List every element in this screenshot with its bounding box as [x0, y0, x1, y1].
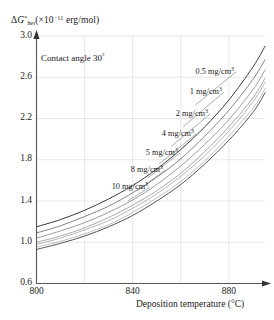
curve-label-text: 5 mg/cm: [146, 148, 175, 157]
contact-angle-degree-symbol: °: [102, 52, 105, 59]
curve-label-text: 4 mg/cm: [162, 129, 191, 138]
curve-label-8-mg-cm3: 8 mg/cm3: [131, 164, 163, 174]
contact-angle-annotation: Contact angle 30°: [41, 52, 105, 63]
chart-figure: ΔG*het(×10−11 erg/mol) Contact angle 30°…: [0, 0, 274, 320]
curve-label-exponent: 3: [160, 164, 163, 170]
curve-label-1-mg-cm3: 1 mg/cm3: [190, 86, 222, 96]
y-tick-label: 2.6: [8, 71, 32, 81]
y-tick-label: 1.0: [8, 236, 32, 246]
y-tick-label: 3.0: [8, 30, 32, 40]
curve-label-exponent: 3: [219, 86, 222, 92]
curve-label-exponent: 3: [175, 147, 178, 153]
curve-label-exponent: 3: [191, 128, 194, 134]
curve-label-5-mg-cm3: 5 mg/cm3: [146, 147, 178, 157]
curve-label-0.5-mg-cm3: 0.5 mg/cm3: [196, 66, 234, 76]
curve-label-text: 0.5 mg/cm: [196, 67, 232, 76]
y-axis-arrow-icon: [33, 30, 39, 39]
curve-label-text: 2 mg/cm: [176, 109, 205, 118]
curve-label-4-mg-cm3: 4 mg/cm3: [162, 128, 194, 138]
curve-label-exponent: 3: [145, 181, 148, 187]
axis-lines: [33, 30, 271, 287]
x-tick-label: 800: [20, 286, 54, 296]
y-tick-label: 2.2: [8, 112, 32, 122]
curve-label-text: 1 mg/cm: [190, 87, 219, 96]
x-tick-label: 840: [116, 286, 150, 296]
curve-label-10-mg-cm3: 10 mg/cm3: [112, 181, 148, 191]
contact-angle-text: Contact angle 30: [41, 53, 102, 63]
y-tick-label: 1.4: [8, 195, 32, 205]
y-tick-label: 1.8: [8, 153, 32, 163]
plot-canvas: [0, 0, 274, 320]
curve-label-2-mg-cm3: 2 mg/cm3: [176, 108, 208, 118]
curve-label-text: 10 mg/cm: [112, 182, 145, 191]
curve-label-text: 8 mg/cm: [131, 165, 160, 174]
curve-4-mg-cm3: [37, 78, 266, 242]
curve-label-exponent: 3: [205, 108, 208, 114]
curve-label-exponent: 3: [231, 66, 234, 72]
x-tick-label: 880: [212, 286, 246, 296]
x-axis-arrow-icon: [262, 280, 271, 286]
x-axis-label: Deposition temperature (°C): [136, 299, 244, 309]
